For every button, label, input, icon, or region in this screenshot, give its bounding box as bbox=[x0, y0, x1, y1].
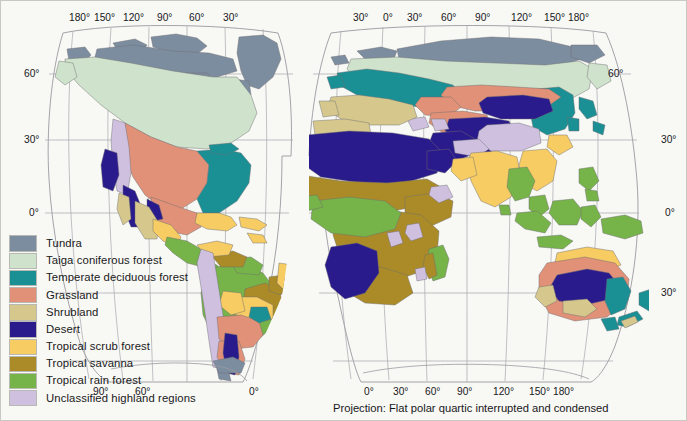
biome-temperate-deciduous-tasmania bbox=[601, 317, 619, 331]
legend-item-temperate-deciduous-forest: Temperate deciduous forest bbox=[9, 269, 195, 286]
legend-swatch-tundra bbox=[9, 235, 37, 251]
biome-rainforest-new-guinea bbox=[601, 215, 643, 239]
biome-rainforest-sri-lanka bbox=[499, 205, 511, 215]
biome-rainforest-java bbox=[537, 235, 573, 249]
legend-item-taiga-coniferous-forest: Taiga coniferous forest bbox=[9, 252, 195, 269]
legend-label-grassland: Grassland bbox=[46, 290, 98, 301]
biome-tropical-scrub-southchina bbox=[547, 135, 573, 155]
eurasia-africa-australia-biomes bbox=[295, 37, 657, 331]
biome-rainforest-sulawesi bbox=[581, 205, 601, 227]
legend-swatch-unclassified-highland-regions bbox=[9, 390, 37, 406]
legend-item-tropical-savanna: Tropical savanna bbox=[9, 355, 195, 372]
biome-temperate-deciduous-japan-2 bbox=[593, 121, 605, 135]
legend-label-tropical-scrub-forest: Tropical scrub forest bbox=[46, 341, 150, 352]
legend-item-desert: Desert bbox=[9, 321, 195, 338]
legend-label-tundra: Tundra bbox=[46, 238, 82, 249]
legend-swatch-shrubland bbox=[9, 304, 37, 320]
biome-temperate-deciduous-new-zealand bbox=[639, 289, 657, 311]
biome-tropical-scrub-antilles bbox=[239, 217, 267, 231]
coord-top-left-120: 120° bbox=[123, 13, 144, 23]
legend-swatch-taiga-coniferous-forest bbox=[9, 253, 37, 269]
legend-item-unclassified-highland-regions: Unclassified highland regions bbox=[9, 390, 195, 407]
coord-left-lat-60: 60° bbox=[24, 69, 39, 79]
coord-bottom-right-150: 150° bbox=[529, 387, 550, 397]
coord-bottom-right-120: 120° bbox=[493, 387, 514, 397]
legend-item-tundra: Tundra bbox=[9, 235, 195, 252]
coord-top-left-30: 30° bbox=[223, 13, 238, 23]
coord-top-right-90: 90° bbox=[475, 13, 490, 23]
biome-rainforest-congo bbox=[311, 197, 401, 237]
legend-label-temperate-deciduous-forest: Temperate deciduous forest bbox=[46, 272, 188, 283]
coord-bottom-left-0: 0° bbox=[249, 387, 259, 397]
biome-temperate-deciduous-japan bbox=[579, 97, 597, 119]
legend-swatch-grassland bbox=[9, 287, 37, 303]
legend-label-taiga-coniferous-forest: Taiga coniferous forest bbox=[46, 255, 162, 266]
coord-right-lat-30: 30° bbox=[661, 135, 676, 145]
biome-rainforest-sumatra bbox=[515, 211, 551, 233]
coord-right-lat-30s: 30° bbox=[661, 288, 676, 298]
legend-swatch-tropical-scrub-forest bbox=[9, 339, 37, 355]
biome-temperate-deciduous-korea bbox=[567, 117, 579, 131]
legend-swatch-tropical-savanna bbox=[9, 356, 37, 372]
coord-left-lat-0: 0° bbox=[29, 208, 39, 218]
biome-rainforest-philippines bbox=[579, 167, 599, 191]
coord-top-right-60: 60° bbox=[441, 13, 456, 23]
coord-top-left-60: 60° bbox=[189, 13, 204, 23]
coord-bottom-right-0: 0° bbox=[364, 387, 374, 397]
legend-item-shrubland: Shrubland bbox=[9, 304, 195, 321]
coord-bottom-right-180: 180° bbox=[553, 387, 574, 397]
coord-top-right-150: 150° bbox=[544, 13, 565, 23]
coord-top-left-150: 150° bbox=[94, 13, 115, 23]
coord-top-left-90: 90° bbox=[157, 13, 172, 23]
legend-swatch-desert bbox=[9, 321, 37, 337]
biome-highland-africa-south bbox=[415, 267, 427, 281]
coord-top-right-120: 120° bbox=[511, 13, 532, 23]
legend-swatch-temperate-deciduous-forest bbox=[9, 270, 37, 286]
legend-label-tropical-rain-forest: Tropical rain forest bbox=[46, 375, 141, 386]
legend-swatch-tropical-rain-forest bbox=[9, 373, 37, 389]
legend-label-desert: Desert bbox=[46, 324, 80, 335]
biome-rainforest-philippines-2 bbox=[585, 189, 599, 201]
coord-top-right-0: 0° bbox=[383, 13, 393, 23]
coord-top-left-180: 180° bbox=[69, 13, 90, 23]
biome-desert-sahara bbox=[299, 131, 443, 183]
coord-bottom-right-60: 60° bbox=[425, 387, 440, 397]
biome-rainforest-borneo bbox=[549, 199, 583, 225]
biome-desert-gobi bbox=[479, 95, 553, 119]
biome-tundra-iceland bbox=[331, 55, 349, 65]
legend-item-tropical-rain-forest: Tropical rain forest bbox=[9, 373, 195, 390]
biome-tropical-scrub-caribbean bbox=[195, 213, 237, 231]
coord-right-lat-0: 0° bbox=[665, 208, 675, 218]
legend-label-tropical-savanna: Tropical savanna bbox=[46, 358, 133, 369]
coord-top-right-30b: 30° bbox=[407, 13, 422, 23]
legend-label-unclassified-highland-regions: Unclassified highland regions bbox=[46, 393, 196, 404]
biome-legend: Tundra Taiga coniferous forest Temperate… bbox=[9, 235, 195, 407]
projection-caption: Projection: Flat polar quartic interrupt… bbox=[333, 402, 609, 414]
legend-label-shrubland: Shrubland bbox=[46, 307, 98, 318]
biome-tropical-scrub-antilles-2 bbox=[247, 233, 267, 243]
coord-right-lat-60: 60° bbox=[608, 69, 623, 79]
coord-top-right-30a: 30° bbox=[353, 13, 368, 23]
coord-bottom-right-30: 30° bbox=[393, 387, 408, 397]
biome-shrubland-baja bbox=[117, 193, 131, 225]
legend-item-tropical-scrub-forest: Tropical scrub forest bbox=[9, 338, 195, 355]
coord-top-right-180: 180° bbox=[568, 13, 589, 23]
legend-item-grassland: Grassland bbox=[9, 287, 195, 304]
coord-left-lat-30: 30° bbox=[24, 135, 39, 145]
coord-bottom-right-90: 90° bbox=[457, 387, 472, 397]
world-biome-map-figure: 180° 150° 120° 90° 60° 30° 30° 0° 30° 60… bbox=[0, 0, 687, 421]
